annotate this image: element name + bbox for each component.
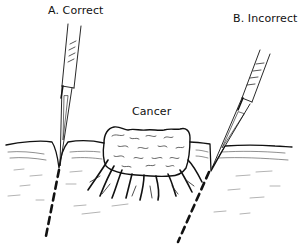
scalpel-incorrect (212, 50, 270, 168)
illustration-canvas (0, 0, 298, 247)
incision-line-incorrect (178, 172, 209, 242)
incision-line-correct (46, 170, 59, 236)
label-incorrect: B. Incorrect (233, 12, 297, 25)
scalpel-correct (60, 24, 81, 166)
skin-surface (6, 141, 292, 214)
incision-diagram: A. Correct B. Incorrect Cancer (0, 0, 298, 247)
label-correct: A. Correct (48, 4, 103, 17)
cancer-lesion (88, 127, 202, 200)
label-cancer: Cancer (132, 105, 171, 118)
